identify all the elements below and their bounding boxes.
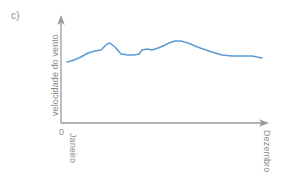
plot-area [0, 0, 283, 187]
y-axis [57, 15, 65, 123]
wind-speed-line-chart: c) velocidade do vento 0 Janeiro Dezembr… [0, 0, 283, 187]
chart-screenshot: c) velocidade do vento 0 Janeiro Dezembr… [0, 0, 283, 187]
wind-speed-series-line [67, 41, 262, 62]
x-axis [61, 119, 269, 127]
